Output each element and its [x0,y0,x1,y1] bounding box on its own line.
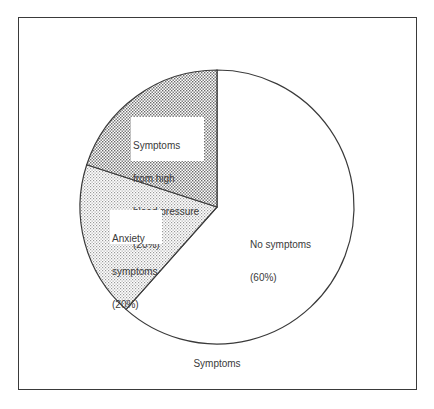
pie-chart [0,0,434,409]
chart-caption: Symptoms [0,358,434,369]
label-line: (20%) [112,299,160,310]
label-line: No symptoms [250,239,311,250]
label-line: symptoms [112,266,160,277]
label-no-symptoms: No symptoms (60%) [248,216,313,295]
label-line: Anxiety [112,233,160,244]
label-line: (60%) [250,272,311,283]
label-high-blood-pressure: Symptoms from high blood pressure (20%) [131,117,204,161]
label-anxiety: Anxiety symptoms (20%) [110,210,162,244]
label-line: from high [133,173,202,184]
label-line: Symptoms [133,140,202,151]
